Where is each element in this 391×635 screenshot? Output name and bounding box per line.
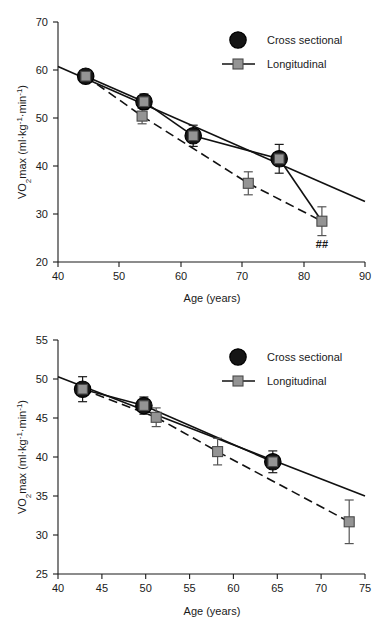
- figure-page: 70 60 50 40 30 20 40: [0, 0, 391, 635]
- regression-line-cross-sectional-top: [58, 67, 365, 202]
- legend-square-icon: [233, 59, 243, 69]
- cross-sectional-path-top: [86, 76, 322, 221]
- y-tick-label: 50: [36, 373, 48, 385]
- x-tick-label: 60: [175, 270, 187, 282]
- y-axis-title-prefix: VO: [16, 498, 28, 514]
- y-axis-title-bottom: VO2max (ml·kg-1·min-1): [15, 400, 33, 514]
- legend-item-longitudinal: Longitudinal: [222, 375, 326, 387]
- chart-panel-bottom: 55 50 45 40 35 30 25: [0, 318, 391, 635]
- chart-svg-top: 70 60 50 40 30 20 40: [0, 0, 391, 318]
- legend-label-cross-sectional: Cross sectional: [267, 34, 342, 46]
- y-tick-label: 40: [36, 451, 48, 463]
- axes-bottom: 55 50 45 40 35 30 25: [36, 334, 371, 594]
- x-tick-label: 60: [227, 582, 239, 594]
- data-point-longitudinal: [243, 178, 253, 188]
- x-tick-label: 80: [298, 270, 310, 282]
- data-point-longitudinal-overlay: [139, 401, 149, 411]
- x-tick-label: 50: [140, 582, 152, 594]
- y-axis-title-suffix: ): [16, 85, 28, 89]
- data-point-longitudinal: [151, 412, 161, 422]
- y-tick-label: 45: [36, 412, 48, 424]
- x-tick-label: 75: [359, 582, 371, 594]
- y-tick-label: 40: [36, 160, 48, 172]
- x-tick-label: 70: [236, 270, 248, 282]
- y-tick-labels-top: 70 60 50 40 30 20: [36, 16, 48, 268]
- markers-longitudinal-bottom: [151, 412, 354, 527]
- legend-circle-icon: [230, 349, 246, 365]
- data-point-longitudinal-overlay: [188, 131, 198, 141]
- y-axis-title-mid: max (ml·kg: [16, 439, 28, 493]
- significance-annotation-top: ##: [316, 238, 328, 250]
- legend-item-cross-sectional: Cross sectional: [230, 32, 342, 48]
- y-tick-label: 30: [36, 529, 48, 541]
- y-tick-label: 25: [36, 568, 48, 580]
- x-tick-label: 50: [113, 270, 125, 282]
- x-axis-title-top: Age (years): [184, 292, 241, 304]
- y-tick-label: 20: [36, 256, 48, 268]
- longitudinal-path-top: [86, 76, 322, 221]
- y-tick-label: 50: [36, 112, 48, 124]
- data-point-longitudinal-overlay: [268, 457, 278, 467]
- legend-bottom: Cross sectional Longitudinal: [222, 349, 342, 387]
- y-tick-labels-bottom: 55 50 45 40 35 30 25: [36, 334, 48, 580]
- legend-label-longitudinal: Longitudinal: [267, 58, 326, 70]
- error-bars-longitudinal-bottom: [152, 408, 354, 544]
- x-tick-labels-bottom: 40 45 50 55 60 65 70 75: [52, 582, 371, 594]
- x-tick-label: 40: [52, 582, 64, 594]
- data-point-longitudinal-overlay: [78, 384, 88, 394]
- x-ticks-top: [58, 262, 365, 267]
- y-axis-title-mid2: ·min: [16, 411, 28, 432]
- svg-text:VO2max (ml·kg-1·min-1): VO2max (ml·kg-1·min-1): [15, 85, 33, 199]
- y-axis-title-prefix: VO: [16, 183, 28, 199]
- x-tick-label: 70: [315, 582, 327, 594]
- data-point-longitudinal: [344, 517, 354, 527]
- data-point-longitudinal-overlay: [139, 97, 149, 107]
- y-tick-label: 70: [36, 16, 48, 28]
- x-ticks-bottom: [58, 574, 365, 579]
- data-point-longitudinal: [213, 447, 223, 457]
- x-axis-title-bottom: Age (years): [184, 605, 241, 617]
- data-point-longitudinal-overlay: [274, 154, 284, 164]
- y-ticks-bottom: [53, 340, 58, 574]
- y-tick-label: 35: [36, 490, 48, 502]
- y-tick-label: 60: [36, 64, 48, 76]
- x-tick-labels-top: 40 50 60 70 80 90: [52, 270, 371, 282]
- x-tick-label: 40: [52, 270, 64, 282]
- legend-top: Cross sectional Longitudinal: [222, 32, 342, 70]
- y-axis-title-top: VO2max (ml·kg-1·min-1): [15, 85, 33, 199]
- legend-item-longitudinal: Longitudinal: [222, 58, 326, 70]
- y-tick-label: 55: [36, 334, 48, 346]
- y-axis-title-suffix: ): [16, 400, 28, 404]
- data-point-longitudinal: [137, 111, 147, 121]
- error-bars-cross-sectional-bottom: [78, 377, 277, 473]
- legend-label-longitudinal: Longitudinal: [267, 375, 326, 387]
- svg-text:VO2max (ml·kg-1·min-1): VO2max (ml·kg-1·min-1): [15, 400, 33, 514]
- data-point-longitudinal-overlay: [81, 71, 91, 81]
- x-tick-label: 45: [96, 582, 108, 594]
- x-tick-label: 65: [271, 582, 283, 594]
- y-axis-title-mid2: ·min: [16, 96, 28, 117]
- x-tick-label: 55: [183, 582, 195, 594]
- x-tick-label: 90: [359, 270, 371, 282]
- chart-panel-top: 70 60 50 40 30 20 40: [0, 0, 391, 318]
- chart-svg-bottom: 55 50 45 40 35 30 25: [0, 318, 391, 635]
- legend-square-icon: [233, 376, 243, 386]
- legend-circle-icon: [230, 32, 246, 48]
- legend-item-cross-sectional: Cross sectional: [230, 349, 342, 365]
- data-point-longitudinal: [317, 216, 327, 226]
- y-axis-title-mid: max (ml·kg: [16, 124, 28, 178]
- legend-label-cross-sectional: Cross sectional: [267, 351, 342, 363]
- y-ticks-top: [53, 22, 58, 262]
- y-tick-label: 30: [36, 208, 48, 220]
